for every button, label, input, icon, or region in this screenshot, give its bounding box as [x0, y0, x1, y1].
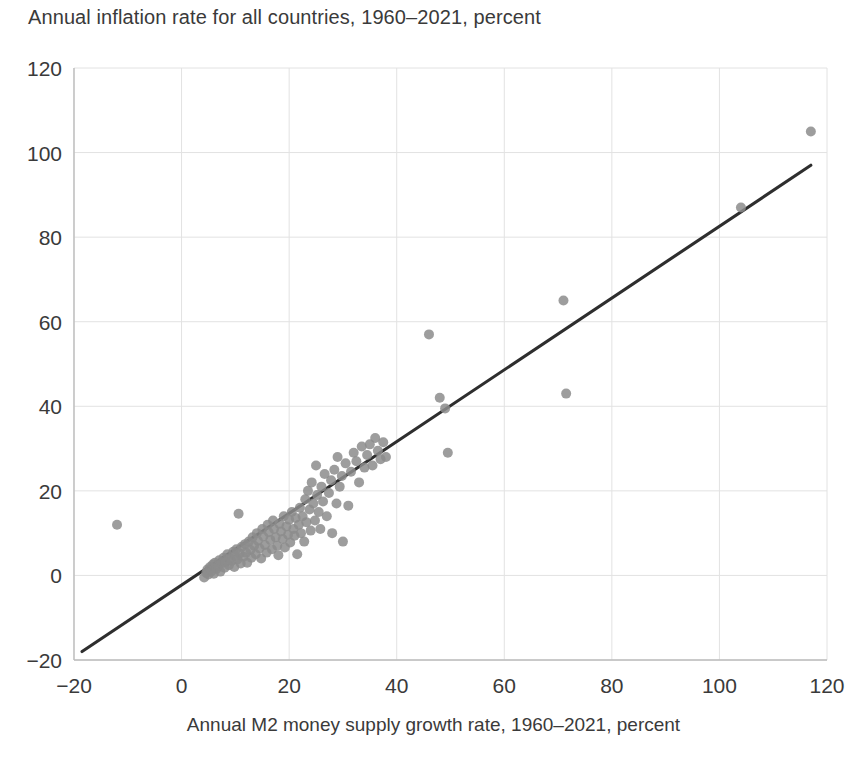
data-point: [354, 477, 364, 487]
data-point: [338, 537, 348, 547]
data-point: [424, 329, 434, 339]
data-point: [333, 452, 343, 462]
y-tick-label: 0: [50, 564, 62, 587]
data-point: [351, 456, 361, 466]
data-point: [327, 528, 337, 538]
y-tick-label: 100: [27, 142, 62, 165]
x-tick-label: −20: [56, 674, 92, 697]
data-point: [561, 389, 571, 399]
chart-figure: Annual inflation rate for all countries,…: [0, 0, 867, 759]
data-point: [331, 499, 341, 509]
data-point: [368, 460, 378, 470]
y-tick-label: 40: [39, 395, 62, 418]
gridlines: [74, 68, 827, 660]
data-point: [311, 460, 321, 470]
x-tick-labels: −20020406080100120: [56, 674, 844, 697]
y-tick-label: −20: [26, 649, 62, 672]
data-point: [326, 475, 336, 485]
data-point: [435, 393, 445, 403]
y-tick-label: 120: [27, 57, 62, 80]
scatter-plot-canvas: −20020406080100120 −20020406080100120: [0, 0, 867, 759]
data-point: [324, 488, 334, 498]
data-point: [335, 482, 345, 492]
data-point: [295, 503, 305, 513]
x-tick-label: 20: [277, 674, 300, 697]
data-point: [234, 509, 244, 519]
axis-lines: [74, 68, 827, 660]
data-point: [337, 471, 347, 481]
data-point: [322, 511, 332, 521]
data-point: [341, 458, 351, 468]
data-points: [112, 126, 816, 582]
data-point: [292, 549, 302, 559]
x-tick-label: 120: [809, 674, 844, 697]
data-point: [558, 296, 568, 306]
data-point: [273, 550, 283, 560]
x-tick-label: 40: [385, 674, 408, 697]
x-tick-label: 80: [600, 674, 623, 697]
data-point: [349, 448, 359, 458]
y-tick-label: 60: [39, 311, 62, 334]
data-point: [373, 446, 383, 456]
data-point: [381, 452, 391, 462]
data-point: [343, 501, 353, 511]
data-point: [362, 450, 372, 460]
x-axis-label: Annual M2 money supply growth rate, 1960…: [0, 714, 867, 736]
data-point: [806, 126, 816, 136]
x-tick-label: 60: [493, 674, 516, 697]
y-tick-label: 20: [39, 480, 62, 503]
x-tick-label: 100: [702, 674, 737, 697]
data-point: [307, 477, 317, 487]
y-tick-labels: −20020406080100120: [26, 57, 62, 672]
data-point: [378, 437, 388, 447]
data-point: [301, 517, 311, 527]
data-point: [440, 403, 450, 413]
data-point: [306, 526, 316, 536]
data-point: [736, 203, 746, 213]
data-point: [315, 524, 325, 534]
data-point: [318, 496, 328, 506]
y-tick-label: 80: [39, 226, 62, 249]
data-point: [346, 467, 356, 477]
data-point: [443, 448, 453, 458]
x-tick-label: 0: [176, 674, 188, 697]
data-point: [112, 520, 122, 530]
data-point: [299, 537, 309, 547]
